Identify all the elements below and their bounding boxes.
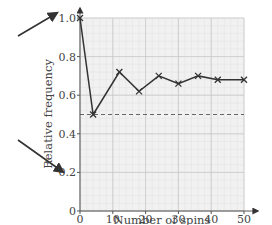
svg-text:1.0: 1.0 xyxy=(59,12,77,25)
y-axis-ticks: 00.20.40.60.81.0 xyxy=(59,12,81,218)
y-axis-label: Relative frequency xyxy=(41,59,55,169)
svg-text:0.8: 0.8 xyxy=(59,51,77,64)
x-axis-label: Number of spins xyxy=(114,213,211,225)
svg-text:0: 0 xyxy=(69,205,76,218)
svg-text:0.2: 0.2 xyxy=(59,166,77,179)
relative-frequency-chart: 01020304050 00.20.40.60.81.0 Number of s… xyxy=(0,0,272,225)
svg-text:0.6: 0.6 xyxy=(59,89,77,102)
svg-text:50: 50 xyxy=(237,213,251,225)
svg-text:0: 0 xyxy=(77,213,84,225)
svg-text:0.4: 0.4 xyxy=(59,128,77,141)
annotation-arrow-top xyxy=(18,13,57,36)
